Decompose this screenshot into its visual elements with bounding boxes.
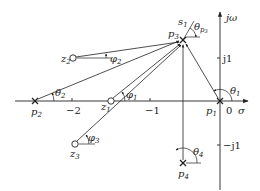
imag-axis-label: jω (224, 12, 237, 23)
label-p4: p4 (178, 168, 189, 181)
pole-zero-diagram: jω σ 0 −2 −1 j1 −j1 p1 p2 p3 p4 z1 z2 z3… (0, 0, 260, 191)
angle-arcs (52, 28, 232, 163)
label-z3: z3 (69, 148, 80, 161)
zero-z1 (108, 98, 114, 104)
label-theta2: θ2 (55, 87, 66, 100)
vector-z2-to-s1 (76, 42, 179, 57)
label-p3: p3 (168, 28, 179, 41)
pole-p4 (180, 160, 186, 166)
label-theta-p3: θp3 (194, 21, 208, 34)
vector-z1-to-s1 (113, 44, 180, 98)
origin-label: 0 (226, 105, 232, 116)
label-z2: z2 (60, 53, 71, 66)
label-theta1: θ1 (230, 85, 241, 98)
label-theta4: θ4 (193, 146, 204, 159)
label-phi2: φ2 (110, 53, 122, 66)
real-axis-label: σ (238, 105, 246, 116)
vector-p1-to-s1 (186, 44, 218, 98)
zero-z3 (72, 141, 78, 147)
tick-label-minus-j1: −j1 (223, 140, 241, 151)
tick-label-j1: j1 (222, 53, 232, 64)
label-p2: p2 (31, 106, 42, 119)
pole-p3 (180, 37, 186, 43)
label-phi3: φ3 (88, 132, 100, 145)
tick-label-minus-1: −1 (145, 105, 160, 116)
zero-z2 (70, 55, 76, 61)
label-s1: s1 (178, 16, 188, 29)
label-p1: p1 (206, 105, 217, 118)
labels: jω σ 0 −2 −1 j1 −j1 p1 p2 p3 p4 z1 z2 z3… (31, 12, 246, 181)
tick-label-minus-2: −2 (66, 105, 81, 116)
arc-theta2 (52, 93, 54, 101)
label-phi1: φ1 (126, 89, 137, 102)
axes (15, 12, 248, 190)
arc-phi1 (122, 92, 125, 101)
